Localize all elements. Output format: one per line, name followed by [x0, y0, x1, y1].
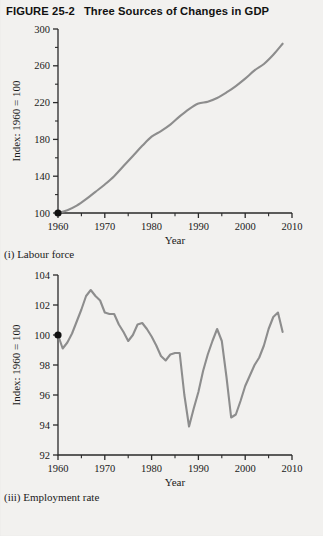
figure-title-text: Three Sources of Changes in GDP	[84, 5, 269, 17]
y-tick-label: 180	[34, 134, 50, 145]
y-tick-label: 100	[34, 330, 50, 341]
y-tick-label: 104	[34, 270, 51, 281]
x-tick-label: 1970	[94, 463, 115, 474]
y-tick-label: 92	[40, 450, 51, 461]
axis-lines	[58, 275, 292, 455]
y-axis-title: Index: 1960 = 100	[10, 80, 22, 162]
x-tick-label: 2000	[235, 221, 256, 232]
x-tick-label: 2010	[282, 221, 303, 232]
y-tick-label: 220	[34, 97, 50, 108]
panel-labour-force: 1001401802202603001960197019801990200020…	[0, 17, 323, 260]
x-tick-label: 1960	[48, 221, 69, 232]
x-tick-label: 1970	[94, 221, 115, 232]
figure-number: FIGURE 25-2	[6, 5, 75, 17]
chart-labour-force: 1001401802202603001960197019801990200020…	[0, 17, 323, 249]
x-tick-label: 1980	[141, 463, 162, 474]
x-axis-title: Year	[165, 476, 186, 488]
y-tick-label: 100	[34, 208, 50, 219]
x-tick-label: 1990	[188, 463, 209, 474]
origin-marker-dot	[54, 331, 61, 338]
chart-employment-rate: 9294969810010210419601970198019902000201…	[0, 260, 323, 492]
y-tick-label: 96	[40, 390, 51, 401]
x-axis-title: Year	[165, 234, 186, 246]
panel-labour-force-plot: 1001401802202603001960197019801990200020…	[0, 17, 323, 249]
x-tick-label: 1960	[48, 463, 69, 474]
origin-marker-dot	[54, 209, 61, 216]
panel-employment-rate-caption: (iii) Employment rate	[0, 491, 323, 503]
x-tick-label: 2000	[235, 463, 256, 474]
x-tick-label: 1980	[141, 221, 162, 232]
y-tick-label: 102	[34, 300, 50, 311]
y-tick-label: 140	[34, 171, 50, 182]
panel-employment-rate: 9294969810010210419601970198019902000201…	[0, 260, 323, 503]
panel-labour-force-caption: (i) Labour force	[0, 248, 323, 260]
panel-employment-rate-plot: 9294969810010210419601970198019902000201…	[0, 260, 323, 492]
y-tick-label: 300	[34, 24, 50, 35]
figure-title: FIGURE 25-2Three Sources of Changes in G…	[0, 0, 323, 17]
x-tick-label: 2010	[282, 463, 303, 474]
y-tick-label: 98	[40, 360, 51, 371]
series-line	[58, 44, 283, 213]
y-axis-title: Index: 1960 = 100	[10, 324, 22, 406]
y-tick-label: 260	[34, 60, 50, 71]
x-tick-label: 1990	[188, 221, 209, 232]
y-tick-label: 94	[40, 420, 51, 431]
series-line	[58, 290, 283, 427]
